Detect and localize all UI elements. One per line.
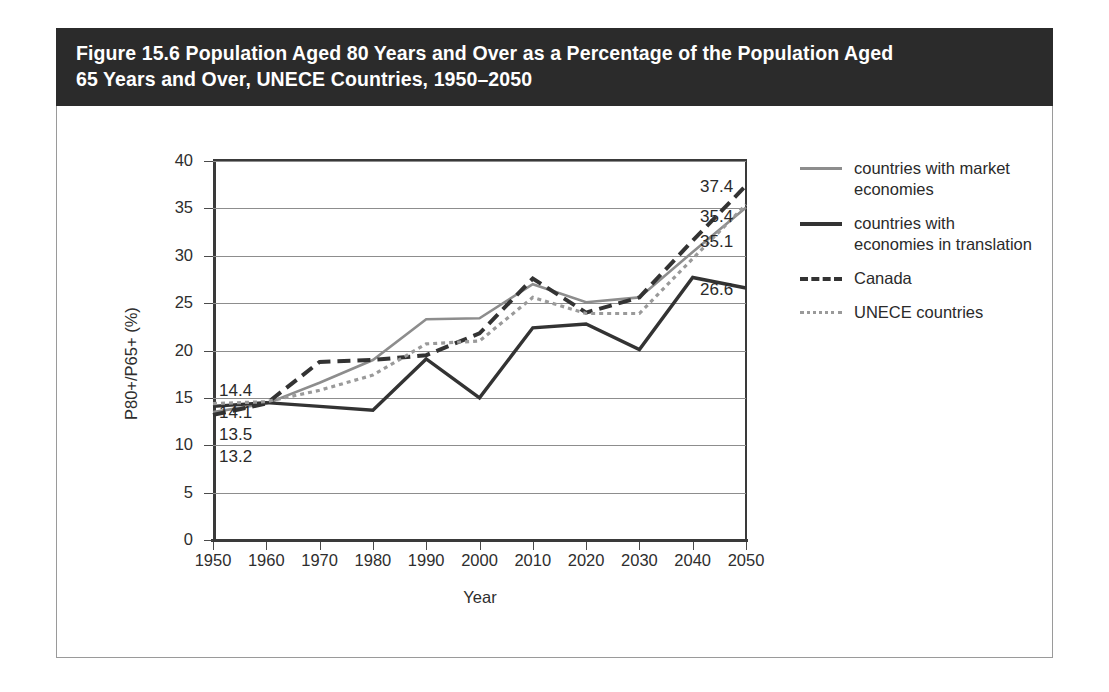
y-tick-label: 25: [157, 293, 193, 312]
y-tick-label: 35: [157, 198, 193, 217]
x-tick-mark: [320, 542, 321, 550]
legend-item-canada[interactable]: Canada: [800, 268, 1050, 289]
gridline: [213, 445, 746, 446]
x-tick-mark: [373, 542, 374, 550]
gridline: [213, 256, 746, 257]
start-value-label: 13.2: [219, 447, 252, 467]
gridline: [213, 351, 746, 352]
x-tick-mark: [480, 542, 481, 550]
y-tick-label: 5: [157, 483, 193, 502]
x-tick-label: 2010: [503, 551, 563, 570]
x-tick-label: 2020: [556, 551, 616, 570]
legend-label-line-1: countries with market: [854, 159, 1010, 177]
title-line-1: Figure 15.6 Population Aged 80 Years and…: [76, 42, 893, 64]
legend-label-unece-countries: UNECE countries: [854, 302, 1050, 323]
x-tick-mark: [426, 542, 427, 550]
y-axis-title: P80+/P65+ (%): [122, 307, 141, 420]
x-tick-mark: [586, 542, 587, 550]
x-tick-label: 2030: [609, 551, 669, 570]
y-tick-mark: [204, 256, 213, 257]
y-tick-mark: [204, 493, 213, 494]
legend-item-economies-in-translation[interactable]: countries with economies in translation: [800, 213, 1050, 255]
end-value-label: 35.1: [700, 232, 733, 252]
y-tick-mark: [204, 208, 213, 209]
y-tick-label: 20: [157, 341, 193, 360]
legend-line-icon-unece-countries: [800, 311, 842, 314]
legend-label-economies-in-translation: countries with economies in translation: [854, 213, 1050, 255]
x-tick-mark: [213, 542, 214, 550]
y-tick-label: 0: [157, 530, 193, 549]
figure-root: Figure 15.6 Population Aged 80 Years and…: [0, 0, 1109, 692]
x-tick-mark: [266, 542, 267, 550]
x-tick-label: 1980: [343, 551, 403, 570]
y-tick-label: 10: [157, 435, 193, 454]
legend-line-icon-economies-in-translation: [800, 222, 842, 226]
y-tick-mark: [204, 351, 213, 352]
y-tick-mark: [204, 398, 213, 399]
legend-label-market-economies: countries with market economies: [854, 158, 1050, 200]
x-tick-label: 2040: [663, 551, 723, 570]
y-tick-mark: [204, 445, 213, 446]
figure-title-banner: Figure 15.6 Population Aged 80 Years and…: [56, 28, 1053, 106]
gridline: [213, 161, 746, 162]
x-tick-label: 2000: [450, 551, 510, 570]
legend-label-line-1: countries with: [854, 214, 955, 232]
x-tick-mark: [693, 542, 694, 550]
legend-item-unece-countries[interactable]: UNECE countries: [800, 302, 1050, 323]
gridline: [213, 398, 746, 399]
title-line-2: 65 Years and Over, UNECE Countries, 1950…: [76, 68, 532, 90]
y-tick-label: 40: [157, 151, 193, 170]
legend-line-icon-market-economies: [800, 167, 842, 170]
y-tick-label: 30: [157, 246, 193, 265]
gridline: [213, 303, 746, 304]
y-tick-mark: [204, 540, 213, 541]
legend-label-canada: Canada: [854, 268, 1050, 289]
end-value-label: 26.6: [700, 280, 733, 300]
start-value-label: 14.4: [219, 381, 252, 401]
chart-legend: countries with market economies countrie…: [800, 158, 1050, 336]
x-tick-label: 1990: [396, 551, 456, 570]
x-tick-mark: [746, 542, 747, 550]
legend-label-line-2: economies: [854, 180, 934, 198]
start-value-label: 13.5: [219, 425, 252, 445]
x-axis-title: Year: [420, 588, 540, 607]
x-tick-label: 1950: [183, 551, 243, 570]
legend-item-market-economies[interactable]: countries with market economies: [800, 158, 1050, 200]
legend-line-icon-canada: [800, 277, 842, 281]
x-tick-label: 1970: [290, 551, 350, 570]
x-tick-mark: [533, 542, 534, 550]
y-tick-mark: [204, 303, 213, 304]
x-tick-label: 2050: [716, 551, 776, 570]
gridline: [213, 493, 746, 494]
start-value-label: 14.1: [219, 403, 252, 423]
page-title: Figure 15.6 Population Aged 80 Years and…: [76, 40, 1035, 92]
y-tick-mark: [204, 161, 213, 162]
gridline: [213, 208, 746, 209]
legend-label-line-2: economies in translation: [854, 235, 1032, 253]
x-tick-mark: [639, 542, 640, 550]
x-tick-label: 1960: [236, 551, 296, 570]
y-tick-label: 15: [157, 388, 193, 407]
end-value-label: 37.4: [700, 177, 733, 197]
end-value-label: 35.4: [700, 207, 733, 227]
